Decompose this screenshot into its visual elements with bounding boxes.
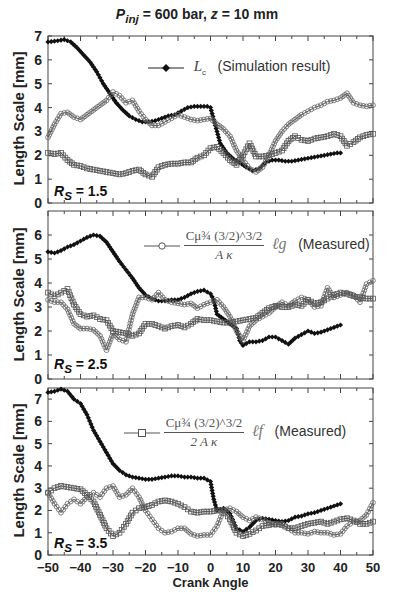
open-square-marker-icon [124, 427, 160, 439]
rs-value: = 1.5 [72, 183, 107, 199]
legend-lf-ell: ℓf [252, 422, 263, 439]
y-tick-label: 7 [34, 391, 42, 407]
y-tick-label: 2 [34, 502, 42, 518]
legend-lg-denominator: A κ [184, 246, 265, 263]
rs-symbol: R [54, 535, 64, 551]
legend-lg-fraction: Cμ¾ (3/2)^3/2A κ [184, 228, 265, 263]
legend-lf-numerator: Cμ¾ (3/2)^3/2 [164, 415, 245, 433]
y-tick-label: 6 [34, 227, 42, 243]
x-tick-label: 40 [333, 560, 347, 575]
y-tick-label: 3 [34, 123, 42, 139]
x-tick-label: 50 [366, 560, 380, 575]
x-tick-label: −40 [69, 560, 91, 575]
y-tick-label: 1 [34, 525, 42, 541]
rs-label-2: RS = 2.5 [54, 356, 107, 375]
y-axis-label-3: Length Scale [mm] [10, 401, 27, 541]
rs-sub: S [64, 541, 72, 554]
legend-lg-ell: ℓg [272, 235, 287, 252]
y-tick-label: 4 [34, 275, 42, 291]
x-axis-label: Crank Angle [48, 575, 373, 590]
legend-lc: Lc (Simulation result) [148, 58, 330, 77]
y-tick-label: 5 [34, 76, 42, 92]
legend-lc-text: (Simulation result) [218, 58, 331, 74]
x-tick-label: −20 [134, 560, 156, 575]
y-tick-label: 5 [34, 436, 42, 452]
y-tick-label: 4 [34, 458, 42, 474]
y-tick-label: 5 [34, 251, 42, 267]
y-tick-label: 1 [34, 171, 42, 187]
rs-value: = 3.5 [72, 535, 107, 551]
x-tick-label: −50 [37, 560, 59, 575]
y-tick-label: 7 [34, 28, 42, 44]
x-tick-label: 0 [207, 560, 214, 575]
y-tick-label: 0 [34, 371, 42, 387]
legend-lf: Cμ¾ (3/2)^3/22 A κ ℓf (Measured) [124, 415, 346, 450]
x-tick-label: 20 [268, 560, 282, 575]
legend-lg: Cμ¾ (3/2)^3/2A κ ℓg (Measured) [144, 228, 370, 263]
legend-lg-text: (Measured) [298, 236, 370, 252]
rs-sub: S [64, 189, 72, 202]
rs-value: = 2.5 [72, 356, 107, 372]
rs-symbol: R [54, 356, 64, 372]
legend-lf-fraction: Cμ¾ (3/2)^3/22 A κ [164, 415, 245, 450]
y-tick-label: 6 [34, 52, 42, 68]
y-tick-label: 2 [34, 323, 42, 339]
y-tick-label: 2 [34, 147, 42, 163]
series-line [48, 389, 341, 532]
rs-label-3: RS = 3.5 [54, 535, 107, 554]
legend-lc-sub: c [202, 68, 206, 77]
x-tick-label: 10 [236, 560, 250, 575]
legend-lf-text: (Measured) [275, 423, 347, 439]
series-line [48, 92, 373, 172]
y-tick-label: 1 [34, 347, 42, 363]
y-tick-label: 3 [34, 299, 42, 315]
y-tick-label: 4 [34, 100, 42, 116]
legend-lg-numerator: Cμ¾ (3/2)^3/2 [184, 228, 265, 246]
x-tick-label: −30 [102, 560, 124, 575]
filled-diamond-marker-icon [148, 62, 184, 74]
rs-label-1: RS = 1.5 [54, 183, 107, 202]
legend-lf-denominator: 2 A κ [164, 433, 245, 450]
y-axis-label-1: Length Scale [mm] [10, 49, 27, 189]
y-tick-label: 6 [34, 413, 42, 429]
chart-canvas: 01234567012345601234567−50−40−30−20−1001… [0, 0, 394, 603]
y-axis-label-2: Length Scale [mm] [10, 225, 27, 365]
y-tick-label: 3 [34, 480, 42, 496]
x-tick-label: −10 [167, 560, 189, 575]
legend-lc-symbol: L [194, 58, 202, 74]
rs-sub: S [64, 362, 72, 375]
rs-symbol: R [54, 183, 64, 199]
x-tick-label: 30 [301, 560, 315, 575]
open-circle-marker-icon [144, 240, 180, 252]
y-tick-label: 0 [34, 195, 42, 211]
